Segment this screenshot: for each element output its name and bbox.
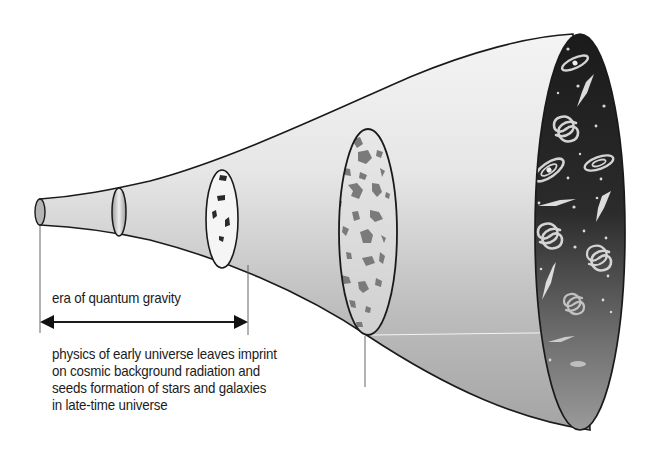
caption-line: on cosmic background radiation and — [52, 363, 356, 380]
arrowhead-right-icon — [234, 315, 248, 329]
caption-line: seeds formation of stars and galaxies — [52, 380, 356, 397]
cross-section-early-fluctuations — [206, 170, 238, 268]
cross-section-quantum-end — [112, 188, 126, 236]
caption-line: in late-time universe — [52, 397, 356, 414]
cross-section-initial — [35, 199, 45, 225]
arrowhead-left-icon — [40, 315, 54, 329]
caption-line: physics of early universe leaves imprint — [52, 346, 356, 363]
era-of-quantum-gravity-label: era of quantum gravity — [52, 290, 181, 306]
caption: physics of early universe leaves imprint… — [52, 346, 356, 414]
era-double-arrow — [40, 315, 248, 329]
